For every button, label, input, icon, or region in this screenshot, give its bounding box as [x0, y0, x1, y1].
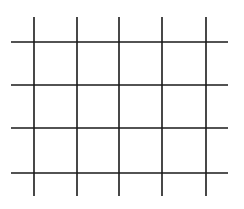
- grid-diagram: [0, 0, 244, 209]
- vertical-lines: [34, 17, 206, 196]
